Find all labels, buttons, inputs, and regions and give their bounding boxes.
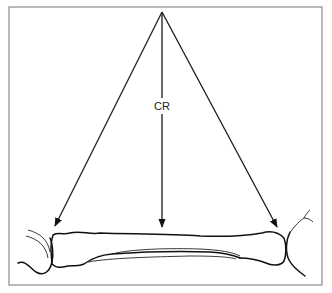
long-bone-outline <box>51 232 286 268</box>
figure-frame <box>9 7 322 285</box>
left-divergent-ray-arrow <box>55 12 162 226</box>
right-joint-outline <box>286 210 313 276</box>
left-joint-outline <box>18 230 53 274</box>
central-ray-label: CR <box>154 100 170 112</box>
beam-divergence-diagram: CR <box>0 0 332 293</box>
right-divergent-ray-arrow <box>162 12 277 227</box>
